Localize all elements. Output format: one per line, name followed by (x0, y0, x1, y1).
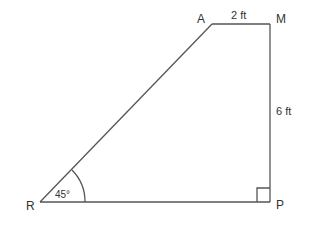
length-label-top: 2 ft (231, 9, 246, 21)
angle-arc-R (72, 170, 85, 202)
right-angle-marker-P (257, 188, 270, 202)
angle-label-R: 45° (55, 189, 70, 200)
trapezoid-diagram: A M P R 2 ft 6 ft 45° (0, 0, 314, 233)
vertex-label-M: M (276, 12, 286, 26)
vertex-label-R: R (26, 199, 35, 213)
shape-edges (40, 24, 270, 202)
vertex-label-P: P (276, 198, 284, 212)
vertex-label-A: A (197, 12, 205, 26)
length-label-right: 6 ft (276, 105, 291, 117)
edge-RA (40, 24, 212, 202)
